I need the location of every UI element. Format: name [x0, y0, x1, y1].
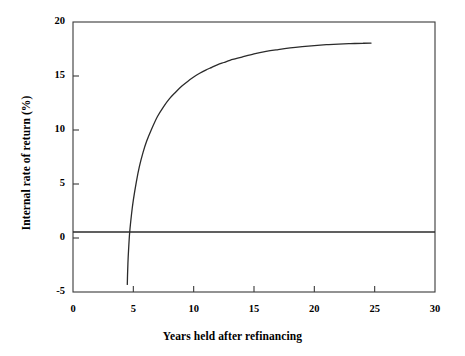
x-tick-label-5: 5	[113, 303, 153, 314]
x-tick-label-20: 20	[294, 303, 334, 314]
x-tick-label-10: 10	[174, 303, 214, 314]
x-tick-label-25: 25	[355, 303, 395, 314]
y-tick-label-20: 20	[37, 15, 65, 26]
x-tick-label-0: 0	[53, 303, 93, 314]
y-tick-label--5: -5	[37, 285, 65, 296]
y-tick-label-15: 15	[37, 69, 65, 80]
y-tick-label-0: 0	[37, 231, 65, 242]
x-tick-label-30: 30	[415, 303, 455, 314]
y-tick-label-5: 5	[37, 177, 65, 188]
x-tick-label-15: 15	[234, 303, 274, 314]
y-axis-title: Internal rate of return (%)	[20, 63, 32, 263]
y-tick-label-10: 10	[37, 123, 65, 134]
x-axis-title: Years held after refinancing	[0, 330, 465, 342]
